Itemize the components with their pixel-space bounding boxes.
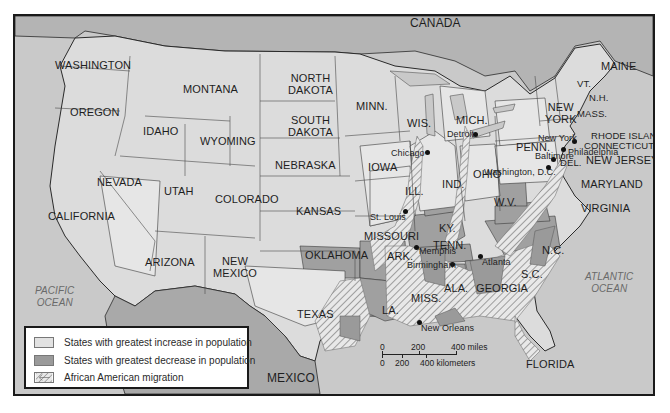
- state-kansas: KANSAS: [296, 205, 341, 217]
- state-new-york: NEW YORK: [545, 101, 577, 125]
- scale-km-400: 400 kilometers: [420, 358, 475, 368]
- north-dakota-line2: DAKOTA: [288, 84, 333, 96]
- new-mexico-line1: NEW: [213, 255, 257, 267]
- legend-item-migration: African American migration: [34, 371, 184, 383]
- city-st-louis: St. Louis: [370, 211, 406, 223]
- state-california: CALIFORNIA: [48, 210, 115, 222]
- state-montana: MONTANA: [183, 83, 238, 95]
- legend: States with greatest increase in populat…: [24, 326, 249, 389]
- state-wisconsin: WIS.: [407, 117, 431, 129]
- state-vermont: VT.: [577, 78, 591, 90]
- state-minnesota: MINN.: [356, 100, 388, 112]
- state-utah: UTAH: [164, 185, 194, 197]
- state-florida: FLORIDA: [526, 358, 574, 370]
- state-kentucky: KY.: [439, 222, 456, 234]
- scale-tick: [382, 351, 383, 358]
- state-missouri: MISSOURI: [364, 230, 419, 242]
- state-wyoming: WYOMING: [200, 135, 256, 147]
- state-michigan: MICH.: [456, 114, 488, 126]
- state-illinois: ILL.: [405, 185, 424, 197]
- state-maryland: MARYLAND: [581, 178, 643, 190]
- state-louisiana: LA.: [382, 304, 399, 316]
- pacific-line1: PACIFIC: [35, 285, 74, 297]
- city-detroit: Detroit: [447, 128, 474, 140]
- state-oregon: OREGON: [70, 106, 120, 118]
- city-baltimore: Baltimore: [535, 150, 574, 162]
- city-dot-chicago: [425, 150, 430, 155]
- south-dakota-line2: DAKOTA: [288, 126, 333, 138]
- state-nebraska: NEBRASKA: [275, 159, 336, 171]
- new-mexico-line2: MEXICO: [213, 267, 257, 279]
- scale-km-0: 0: [380, 358, 385, 368]
- state-colorado: COLORADO: [215, 193, 279, 205]
- decrease-swatch-icon: [34, 355, 54, 366]
- state-mississippi: MISS.: [411, 292, 441, 304]
- state-west-virginia: W.V.: [494, 196, 517, 208]
- state-indiana: IND.: [442, 178, 464, 190]
- scale-tick: [419, 351, 420, 355]
- state-new-mexico: NEW MEXICO: [213, 255, 257, 279]
- new-york-line2: YORK: [545, 113, 577, 125]
- state-idaho: IDAHO: [143, 125, 178, 137]
- state-texas: TEXAS: [297, 308, 334, 320]
- city-new-york: New York: [538, 132, 577, 144]
- legend-label-increase: States with greatest increase in populat…: [64, 337, 252, 348]
- state-rhode-island: RHODE ISLAND: [591, 130, 655, 142]
- state-iowa: IOWA: [368, 161, 397, 173]
- state-south-carolina: S.C.: [521, 268, 543, 280]
- state-alabama: ALA.: [444, 282, 468, 294]
- state-nevada: NEVADA: [97, 176, 142, 188]
- state-massachusetts: MASS.: [577, 108, 607, 120]
- canada-label: CANADA: [410, 17, 461, 29]
- increase-swatch-icon: [34, 337, 54, 348]
- new-york-line1: NEW: [545, 101, 577, 113]
- city-atlanta: Atlanta: [482, 256, 511, 268]
- state-new-hampshire: N.H.: [589, 92, 608, 104]
- state-north-carolina: N.C.: [542, 244, 564, 256]
- atlantic-ocean-label: ATLANTIC OCEAN: [585, 271, 633, 295]
- legend-label-decrease: States with greatest decrease in populat…: [64, 355, 255, 366]
- scale-km-200: 200: [395, 358, 409, 368]
- north-dakota-line1: NORTH: [288, 72, 333, 84]
- state-oklahoma: OKLAHOMA: [305, 249, 368, 261]
- scale-tick: [456, 351, 457, 355]
- state-arizona: ARIZONA: [145, 256, 195, 268]
- city-washington-dc: Washington, D.C.: [484, 166, 556, 178]
- state-virginia: VIRGINIA: [581, 202, 630, 214]
- state-maine: MAINE: [601, 60, 636, 72]
- city-birmingham: Birmingham: [407, 259, 456, 271]
- city-philadelphia: Philadelphia: [568, 146, 618, 158]
- city-chicago: Chicago: [391, 147, 425, 159]
- atlantic-line2: OCEAN: [585, 283, 633, 295]
- migration-arrow-icon: [34, 372, 54, 383]
- city-new-orleans: New Orleans: [421, 322, 474, 334]
- south-dakota-line1: SOUTH: [288, 114, 333, 126]
- pacific-ocean-label: PACIFIC OCEAN: [35, 285, 74, 309]
- state-north-dakota: NORTH DAKOTA: [288, 72, 333, 96]
- legend-label-migration: African American migration: [64, 372, 184, 383]
- pacific-line2: OCEAN: [35, 297, 74, 309]
- scale-bar: 0 200 400 miles 0 200 400 kilometers: [378, 342, 498, 370]
- legend-item-increase: States with greatest increase in populat…: [34, 336, 252, 348]
- map-frame: CANADA MEXICO PACIFIC OCEAN ATLANTIC OCE…: [13, 14, 655, 396]
- state-washington: WASHINGTON: [55, 59, 131, 71]
- city-memphis: Memphis: [419, 245, 456, 257]
- legend-item-decrease: States with greatest decrease in populat…: [34, 354, 255, 366]
- mexico-label: MEXICO: [267, 372, 315, 384]
- atlantic-line1: ATLANTIC: [585, 271, 633, 283]
- state-south-dakota: SOUTH DAKOTA: [288, 114, 333, 138]
- state-georgia: GEORGIA: [476, 282, 528, 294]
